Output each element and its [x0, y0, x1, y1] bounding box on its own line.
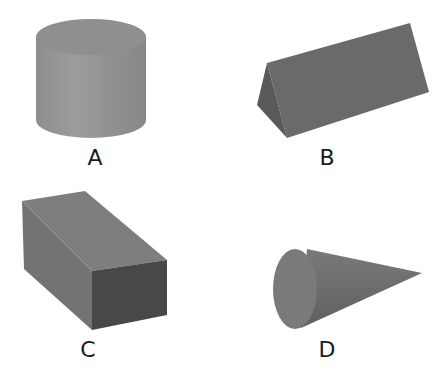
prism-long-face	[267, 23, 429, 138]
label-b: B	[319, 145, 334, 170]
label-c: C	[80, 337, 95, 362]
label-a: A	[87, 145, 102, 170]
shape-c-rectangular-prism: C	[22, 191, 167, 362]
shape-a-cylinder: A	[36, 19, 146, 170]
shape-b-triangular-prism: B	[257, 23, 429, 170]
label-d: D	[319, 337, 336, 362]
box-front-face	[92, 260, 167, 330]
cylinder-top	[36, 19, 146, 55]
cone-surface	[301, 249, 422, 328]
shapes-figure: A B C D	[0, 0, 437, 388]
cone-base	[273, 249, 317, 329]
shape-d-cone: D	[273, 249, 422, 362]
